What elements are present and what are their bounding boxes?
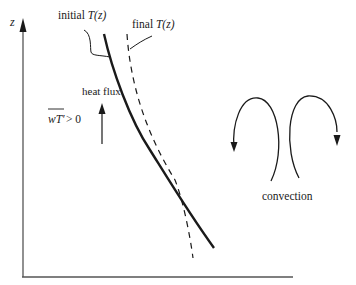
final-temperature-curve [127,34,193,258]
z-axis: z [9,15,27,277]
z-axis-arrow-icon [20,18,27,32]
convection-right-loop-icon [290,96,341,178]
heat-flux-up-arrow-icon [99,103,106,144]
svg-text:wT′: wT′ [48,113,65,125]
convection-label: convection [262,190,313,202]
diagram-canvas: z initial T(z) final T(z) heat flux wT′ … [0,0,356,285]
final-label-pointer [130,36,152,49]
temperature-profile-diagram: z initial T(z) final T(z) heat flux wT′ … [0,0,356,285]
final-curve-label: final T(z) [132,18,175,31]
heat-flux-condition: wT′ > 0 [48,109,81,125]
convection-left-loop-icon [231,98,279,181]
initial-curve-label: initial T(z) [58,9,106,22]
svg-text:> 0: > 0 [66,113,81,125]
heat-flux-label: heat flux [82,85,121,97]
z-axis-label: z [9,15,15,29]
initial-temperature-curve [104,34,214,248]
